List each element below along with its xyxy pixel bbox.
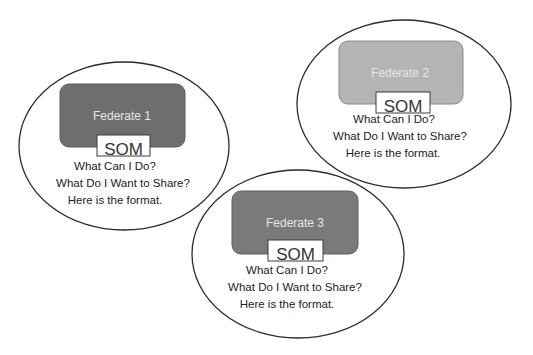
federate-1-line-2: What Do I Want to Share? [56, 177, 190, 189]
federate-1-label: Federate 1 [93, 109, 151, 123]
federate-3-label: Federate 3 [266, 216, 324, 230]
federate-1-line-1: What Can I Do? [74, 160, 156, 172]
federate-1-line-3: Here is the format. [68, 194, 163, 206]
federate-1-som-label: SOM [104, 140, 143, 159]
federate-2-group: Federate 2 SOM What Can I Do? What Do I … [297, 20, 511, 188]
federate-3-line-1: What Can I Do? [246, 264, 328, 276]
federate-1-group: Federate 1 SOM What Can I Do? What Do I … [19, 62, 229, 230]
federation-diagram: Federate 1 SOM What Can I Do? What Do I … [0, 0, 533, 355]
federate-2-label: Federate 2 [371, 66, 429, 80]
federate-3-som-label: SOM [276, 245, 315, 264]
federate-3-line-2: What Do I Want to Share? [228, 281, 362, 293]
federate-3-line-3: Here is the format. [240, 298, 335, 310]
federate-2-line-3: Here is the format. [346, 147, 441, 159]
federate-2-line-1: What Can I Do? [353, 113, 435, 125]
federate-3-group: Federate 3 SOM What Can I Do? What Do I … [192, 170, 404, 338]
federate-2-line-2: What Do I Want to Share? [333, 130, 467, 142]
